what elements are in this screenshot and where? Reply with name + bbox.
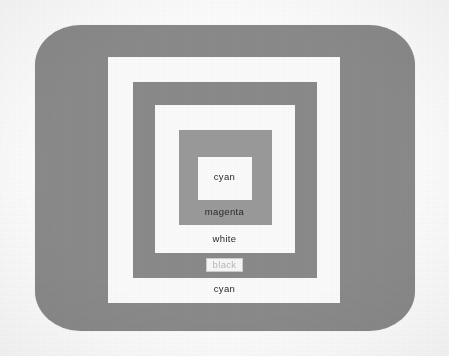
label-black-text: black — [206, 258, 244, 272]
label-magenta-text: magenta — [205, 206, 244, 217]
label-white-text: white — [213, 233, 237, 244]
screenshot-canvas: cyan magenta white black cyan — [0, 0, 449, 356]
label-cyan-outer-text: cyan — [214, 283, 235, 294]
label-cyan-outer: cyan — [0, 283, 449, 294]
label-cyan-inner: cyan — [0, 171, 449, 182]
label-cyan-inner-text: cyan — [214, 171, 235, 182]
label-magenta: magenta — [0, 206, 449, 217]
label-white: white — [0, 233, 449, 244]
label-black: black — [0, 258, 449, 272]
